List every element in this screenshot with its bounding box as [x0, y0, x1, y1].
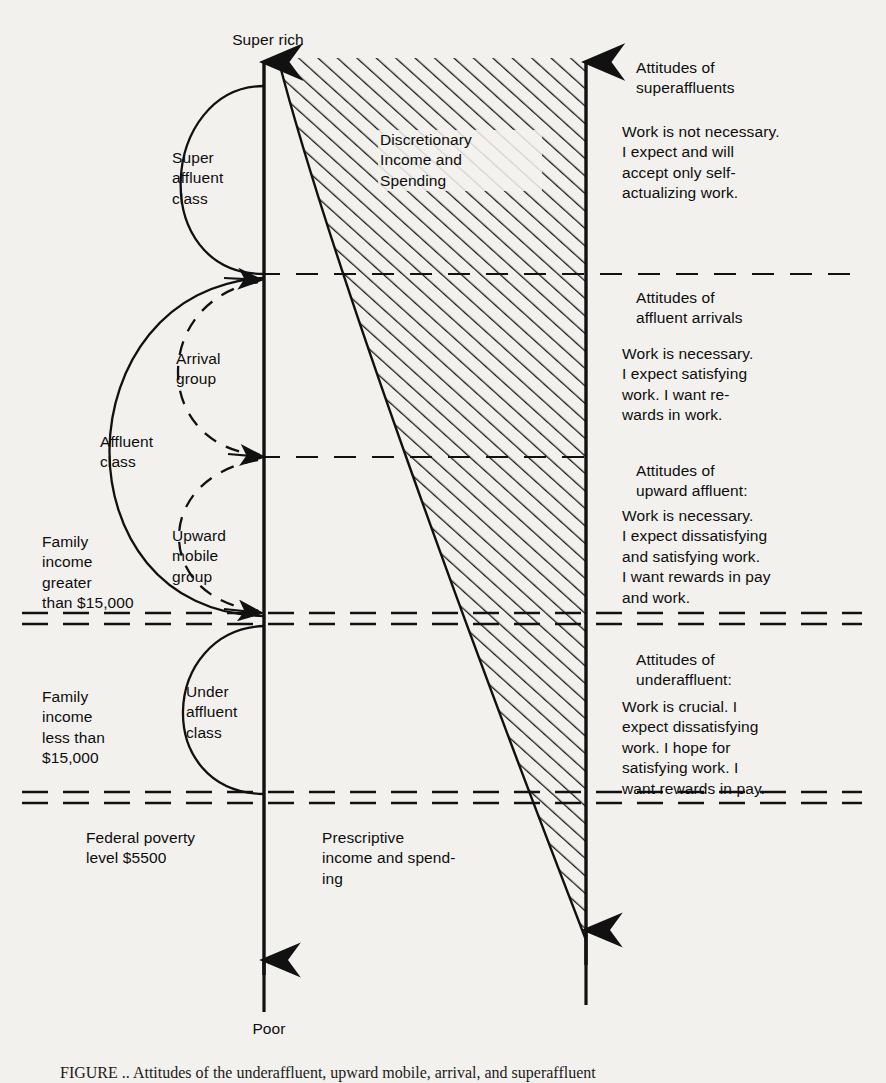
attitude-heading-superaffluent: Attitudes of superaffluents — [636, 58, 866, 99]
discretionary-label: Discretionary Income and Spending — [378, 130, 542, 191]
note-income-greater: Family income greater than $15,000 — [42, 532, 222, 614]
attitude-body-superaffluent: Work is not necessary. I expect and will… — [622, 122, 872, 204]
attitude-body-upward-affluent: Work is necessary. I expect dissatisfyin… — [622, 506, 878, 608]
figure-caption: FIGURE .. Attitudes of the underaffluent… — [60, 1064, 850, 1082]
attitude-body-affluent-arrivals: Work is necessary. I expect satisfying w… — [622, 344, 872, 426]
axis-bottom-label: Poor — [214, 1019, 324, 1039]
label-affluent-class: Affluent class — [100, 432, 220, 473]
attitude-heading-upward-affluent: Attitudes of upward affluent: — [636, 461, 866, 502]
note-income-less: Family income less than $15,000 — [42, 687, 202, 769]
attitude-body-underaffluent: Work is crucial. I expect dissatisfying … — [622, 697, 878, 799]
attitude-heading-affluent-arrivals: Attitudes of affluent arrivals — [636, 288, 866, 329]
label-under-affluent-class: Under affluent class — [186, 682, 306, 743]
figure-root: Super rich Poor Discretionary Income and… — [0, 0, 886, 1083]
note-federal-poverty: Federal poverty level $5500 — [86, 828, 286, 869]
note-prescriptive: Prescriptive income and spend- ing — [322, 828, 512, 889]
attitude-heading-underaffluent: Attitudes of underaffluent: — [636, 650, 866, 691]
axis-top-label: Super rich — [198, 30, 338, 50]
label-arrival-group: Arrival group — [176, 349, 296, 390]
label-super-affluent-class: Super affluent class — [172, 148, 292, 209]
